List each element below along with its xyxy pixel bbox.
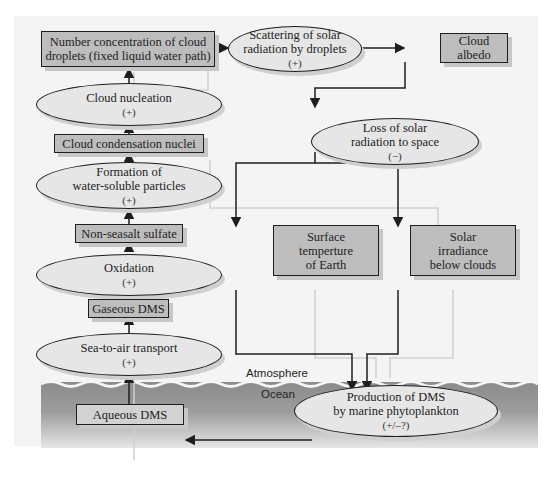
node-text: irradiance: [430, 244, 496, 258]
sign-label: (+/–?): [333, 418, 459, 432]
node-text: below clouds: [430, 258, 496, 272]
ocean-surface-wave: [41, 382, 538, 387]
node-text: of Earth: [299, 258, 353, 272]
node-formation-particles: Formation ofwater-soluble particles(+): [36, 162, 222, 209]
dms-feedback-diagram: Number concentration of clouddroplets (f…: [0, 0, 555, 481]
node-text: Sea-to-air transport: [81, 341, 178, 355]
sign-label: (+): [72, 193, 185, 207]
node-gaseous-dms: Gaseous DMS: [88, 299, 169, 318]
node-text: radiation to space: [351, 135, 439, 149]
sign-label: (+): [81, 355, 178, 369]
node-text: temperture: [299, 244, 353, 258]
node-text: Cloud nucleation: [86, 91, 172, 105]
node-cloud-nucleation: Cloud nucleation(+): [36, 83, 222, 126]
node-text: Surface: [299, 230, 353, 244]
ocean-label: Ocean: [261, 388, 295, 400]
node-non-seasalt-sulfate: Non-seasalt sulfate: [75, 224, 183, 243]
sign-label: (+): [243, 56, 346, 70]
atmosphere-label: Atmosphere: [246, 367, 308, 379]
node-solar-irradiance: Solarirradiancebelow clouds: [410, 225, 516, 276]
node-oxidation: Oxidation(+): [36, 254, 222, 296]
node-text: Number concentration of cloud: [45, 35, 210, 49]
node-production-of-dms: Production of DMSby marine phytoplankton…: [294, 385, 498, 437]
node-text: Loss of solar: [351, 121, 439, 135]
node-text: albedo: [457, 48, 490, 62]
node-text: Scattering of solar: [243, 28, 346, 42]
node-loss-of-solar-radiation: Loss of solarradiation to space(−): [311, 118, 479, 165]
node-cloud-condensation-nuclei: Cloud condensation nuclei: [54, 134, 204, 153]
node-text: Aqueous DMS: [93, 408, 168, 422]
node-text: Solar: [430, 230, 496, 244]
sign-label: (−): [351, 149, 439, 163]
sign-label: (+): [86, 105, 172, 119]
node-sea-to-air-transport: Sea-to-air transport(+): [36, 333, 222, 376]
node-text: Formation of: [72, 165, 185, 179]
node-text: Gaseous DMS: [92, 302, 165, 316]
node-text: radiation by droplets: [243, 42, 346, 56]
node-surface-temperature: Surfacetempertureof Earth: [273, 225, 379, 276]
node-cloud-albedo: Cloudalbedo: [440, 33, 508, 63]
node-text: droplets (fixed liquid water path): [45, 49, 210, 63]
node-text: Non-seasalt sulfate: [81, 227, 176, 241]
node-text: by marine phytoplankton: [333, 404, 459, 418]
node-text: Cloud: [457, 34, 490, 48]
node-number-concentration: Number concentration of clouddroplets (f…: [41, 31, 215, 67]
node-text: water-soluble particles: [72, 179, 185, 193]
node-aqueous-dms: Aqueous DMS: [76, 404, 184, 425]
node-text: Oxidation: [104, 261, 154, 275]
node-scattering: Scattering of solarradiation by droplets…: [228, 26, 362, 72]
node-text: Production of DMS: [333, 390, 459, 404]
node-text: Cloud condensation nuclei: [62, 137, 195, 151]
sign-label: (+): [104, 275, 154, 289]
